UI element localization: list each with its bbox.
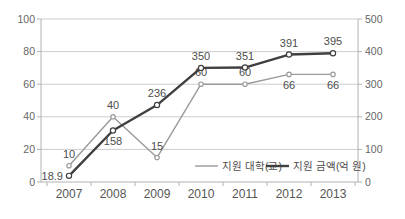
right-axis-tick-label: 100 (365, 143, 383, 155)
x-axis-label: 2008 (100, 187, 127, 201)
data-point-marker (198, 65, 203, 70)
data-point-marker (331, 72, 335, 76)
x-axis-label: 2013 (320, 187, 347, 201)
left-axis-tick-label: 100 (17, 13, 35, 25)
right-axis-tick-label: 0 (365, 176, 371, 188)
x-axis-label: 2012 (276, 187, 303, 201)
data-label: 391 (280, 37, 298, 49)
x-axis-label: 2011 (232, 187, 258, 201)
data-label: 350 (192, 50, 210, 62)
left-axis-tick-label: 80 (23, 45, 35, 57)
data-point-marker (243, 82, 247, 86)
right-axis-tick-label: 200 (365, 110, 383, 122)
line-chart-svg: 0204060801000100200300400500200720082009… (0, 0, 405, 219)
data-point-marker (67, 164, 71, 168)
data-point-marker (199, 82, 203, 86)
x-axis-label: 2007 (56, 187, 83, 201)
data-point-marker (330, 51, 335, 56)
x-axis-label: 2010 (188, 187, 215, 201)
legend-label: 지원 금액(억 원) (293, 160, 366, 172)
support-universities-amount-chart: 0204060801000100200300400500200720082009… (0, 0, 405, 219)
data-point-marker (287, 72, 291, 76)
data-label: 158 (104, 135, 122, 147)
data-label: 10 (63, 148, 75, 160)
data-label: 18.9 (42, 170, 63, 182)
data-label: 236 (148, 87, 166, 99)
data-label: 15 (151, 140, 163, 152)
right-axis-tick-label: 300 (365, 78, 383, 90)
data-point-marker (111, 115, 115, 119)
data-label: 66 (283, 79, 295, 91)
left-axis-tick-label: 60 (23, 78, 35, 90)
x-axis-label: 2009 (144, 187, 171, 201)
data-point-marker (154, 102, 159, 107)
left-axis-tick-label: 0 (29, 176, 35, 188)
data-point-marker (66, 173, 71, 178)
right-axis-tick-label: 500 (365, 13, 383, 25)
data-label: 351 (236, 50, 254, 62)
left-axis-tick-label: 20 (23, 143, 35, 155)
data-point-marker (110, 128, 115, 133)
left-axis-tick-label: 40 (23, 110, 35, 122)
data-label: 395 (324, 35, 342, 47)
data-point-marker (155, 155, 159, 159)
data-point-marker (286, 52, 291, 57)
data-label: 66 (327, 79, 339, 91)
right-axis-tick-label: 400 (365, 45, 383, 57)
data-label: 40 (107, 99, 119, 111)
data-point-marker (242, 65, 247, 70)
